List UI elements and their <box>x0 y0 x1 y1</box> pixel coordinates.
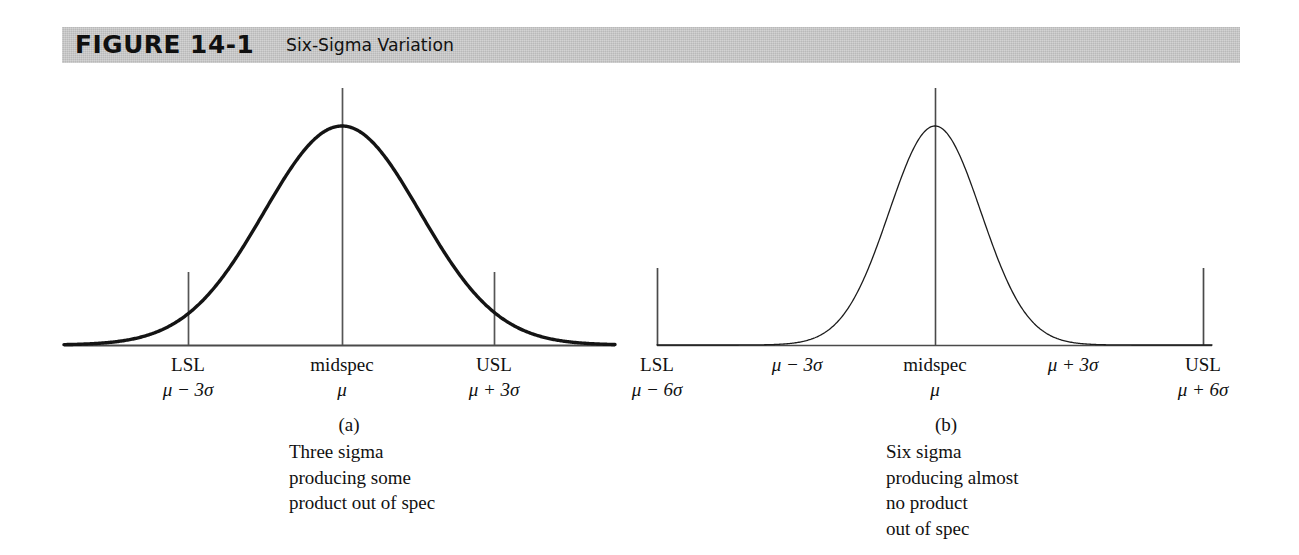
panel-a-label-lsl-row1: LSL <box>163 352 214 377</box>
panel-a-label-midspec: midspec μ <box>310 352 373 402</box>
panel-a-label-midspec-row2: μ <box>310 377 373 402</box>
figure-root: FIGURE 14-1 Six-Sigma Variation LSL μ − … <box>0 0 1299 555</box>
panel-b-label-midspec-row1: midspec <box>903 352 966 377</box>
figure-plot-area <box>0 0 1299 555</box>
panel-a-label-usl-row2: μ + 3σ <box>469 377 520 402</box>
panel-b-label-lsl-row1: LSL <box>632 352 683 377</box>
panel-b-label-usl: USL μ + 6σ <box>1178 352 1229 402</box>
panel-b-label-lsl: LSL μ − 6σ <box>632 352 683 402</box>
panel-a-label-lsl-row2: μ − 3σ <box>163 377 214 402</box>
panel-b-caption: (b) Six sigma producing almost no produc… <box>886 412 1086 541</box>
panel-b-normal-curve <box>657 126 1212 345</box>
panel-a-label-usl: USL μ + 3σ <box>469 352 520 402</box>
panel-a-caption-line-3: product out of spec <box>289 490 469 515</box>
panel-b-label-minus3sigma-row1: μ − 3σ <box>772 352 823 377</box>
panel-a-label-lsl: LSL μ − 3σ <box>163 352 214 402</box>
panel-a-caption-id: (a) <box>289 412 409 437</box>
panel-b-label-usl-row2: μ + 6σ <box>1178 377 1229 402</box>
panel-a-label-midspec-row1: midspec <box>310 352 373 377</box>
panel-b-caption-line-4: out of spec <box>886 516 1086 541</box>
panel-b-graphics <box>657 88 1212 346</box>
panel-a-graphics <box>64 88 615 346</box>
panel-a-caption: (a) Three sigma producing some product o… <box>289 412 469 516</box>
panel-a-normal-curve <box>64 126 615 345</box>
panel-b-label-plus3sigma-row1: μ + 3σ <box>1048 352 1099 377</box>
panel-b-label-minus3sigma: μ − 3σ <box>772 352 823 377</box>
panel-b-label-midspec: midspec μ <box>903 352 966 402</box>
panel-b-label-lsl-row2: μ − 6σ <box>632 377 683 402</box>
panel-b-caption-line-2: producing almost <box>886 465 1086 490</box>
panel-b-caption-id: (b) <box>886 412 1006 437</box>
panel-b-label-usl-row1: USL <box>1178 352 1229 377</box>
panel-b-label-plus3sigma: μ + 3σ <box>1048 352 1099 377</box>
panel-b-caption-line-3: no product <box>886 490 1086 515</box>
panel-b-caption-line-1: Six sigma <box>886 439 1086 464</box>
panel-b-label-midspec-row2: μ <box>903 377 966 402</box>
panel-a-caption-line-2: producing some <box>289 465 469 490</box>
panel-a-caption-line-1: Three sigma <box>289 439 469 464</box>
panel-a-label-usl-row1: USL <box>469 352 520 377</box>
